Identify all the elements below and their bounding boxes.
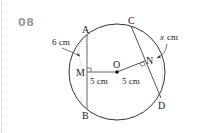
- label-om-5cm: 5 cm: [90, 76, 108, 86]
- circle-chord-figure: A B C D M N O 6 cm 5 cm 5 cm x cm: [0, 0, 197, 133]
- arrowhead-xcm: [157, 55, 161, 58]
- label-o: O: [113, 59, 120, 70]
- label-6cm: 6 cm: [52, 37, 70, 47]
- label-x: x: [159, 32, 164, 42]
- label-x-unit: cm: [167, 32, 178, 42]
- label-b: B: [82, 110, 89, 121]
- label-a: A: [82, 24, 90, 35]
- label-n: N: [146, 55, 153, 66]
- label-c: C: [128, 15, 135, 26]
- right-angle-m: [87, 68, 91, 72]
- arc-indicator-am: [79, 40, 83, 70]
- label-m: M: [76, 67, 85, 78]
- label-d: D: [158, 100, 165, 111]
- label-on-5cm: 5 cm: [122, 76, 140, 86]
- center-point-o: [115, 70, 119, 74]
